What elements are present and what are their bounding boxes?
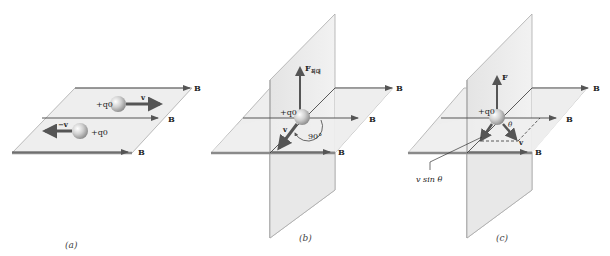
field-label-b: B: [338, 147, 345, 157]
field-label-b: B: [593, 83, 600, 93]
vertical-plane-lower: [270, 152, 335, 238]
field-label-b: B: [566, 114, 573, 124]
charge-label: +q0: [96, 100, 113, 109]
field-label-b: B: [535, 147, 542, 157]
field-label-b: B: [194, 83, 201, 93]
panel-caption: (b): [299, 233, 312, 243]
panel-a: B B B +q0 v +q0 −v (a): [12, 83, 201, 250]
charge-label: +q0: [478, 107, 495, 116]
charge-sphere: [72, 123, 88, 139]
panel-caption: (c): [496, 233, 509, 243]
panel-c: B B B F v +q0 θ v sin θ (c): [408, 14, 600, 243]
panel-caption: (a): [65, 240, 78, 250]
charge-label: +q0: [91, 128, 108, 137]
field-label-b: B: [138, 147, 145, 157]
horizontal-plane-front: [532, 88, 587, 153]
component-label: v sin θ: [416, 175, 442, 184]
field-label-b: B: [396, 83, 403, 93]
horizontal-plane: [12, 88, 192, 153]
angle-label: 90°: [308, 132, 322, 141]
magnetic-force-diagram: B B B +q0 v +q0 −v (a) B B B: [0, 0, 610, 256]
panel-b: B B B F최대 v +q0 90° (b): [211, 14, 403, 243]
force-label: F: [502, 72, 508, 82]
vertical-plane-lower: [467, 152, 532, 238]
velocity-label: −v: [58, 120, 69, 129]
charge-label: +q0: [280, 108, 297, 117]
field-label-b: B: [369, 114, 376, 124]
field-label-b: B: [168, 114, 175, 124]
